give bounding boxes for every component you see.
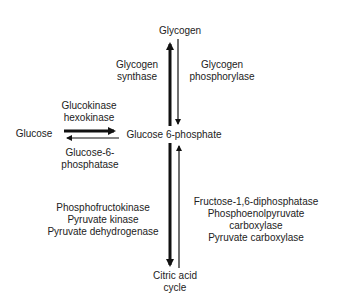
node-line: cycle	[145, 282, 205, 294]
node-glucose-6-phosphate: Glucose 6-phosphate	[122, 129, 226, 141]
enzyme-glycolysis: Phosphofructokinase Pyruvate kinase Pyru…	[42, 202, 164, 238]
node-line: Citric acid	[145, 270, 205, 282]
enzyme-line: Glycogen	[110, 59, 164, 71]
node-glycogen: Glycogen	[150, 25, 210, 37]
enzyme-line: Glucokinase	[56, 100, 122, 112]
enzyme-line: Fructose-1,6-diphosphatase	[188, 196, 324, 208]
enzyme-line: Pyruvate dehydrogenase	[42, 226, 164, 238]
enzyme-line: phosphorylase	[184, 71, 260, 83]
enzyme-line: Glycogen	[184, 59, 260, 71]
enzyme-line: Pyruvate carboxylase	[188, 232, 324, 244]
enzyme-glycogen-synthase: Glycogen synthase	[110, 59, 164, 83]
enzyme-line: carboxylase	[188, 220, 324, 232]
enzyme-line: Phosphofructokinase	[42, 202, 164, 214]
enzyme-glycogen-phosphorylase: Glycogen phosphorylase	[184, 59, 260, 83]
node-citric-acid-cycle: Citric acid cycle	[145, 270, 205, 294]
enzyme-line: hexokinase	[56, 112, 122, 124]
enzyme-glucose-6-phosphatase: Glucose-6- phosphatase	[58, 147, 122, 171]
enzyme-line: Glucose-6-	[58, 147, 122, 159]
enzyme-line: Pyruvate kinase	[42, 214, 164, 226]
enzyme-line: phosphatase	[58, 159, 122, 171]
enzyme-line: synthase	[110, 71, 164, 83]
arrows-layer	[0, 0, 340, 299]
enzyme-line: Phosphoenolpyruvate	[188, 208, 324, 220]
enzyme-gluconeogenesis: Fructose-1,6-diphosphatase Phosphoenolpy…	[188, 196, 324, 244]
enzyme-glucokinase: Glucokinase hexokinase	[56, 100, 122, 124]
node-glucose: Glucose	[12, 128, 56, 140]
